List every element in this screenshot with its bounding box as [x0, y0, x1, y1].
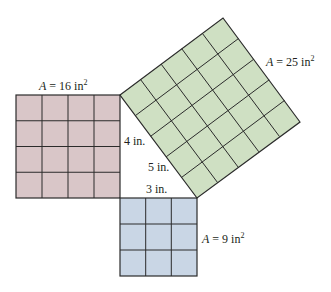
square-b	[120, 198, 197, 276]
leg-b-label: 3 in.	[146, 182, 167, 196]
square-c	[120, 18, 300, 198]
area-label-c: A = 25 in2	[265, 54, 314, 69]
leg-a-label: 4 in.	[124, 134, 145, 148]
area-label-b: A = 9 in2	[201, 231, 244, 246]
area-label-a: A = 16 in2	[38, 78, 87, 93]
square-a	[16, 95, 120, 198]
hypotenuse-label: 5 in.	[148, 160, 169, 174]
pythagorean-diagram: A = 16 in2 A = 25 in2 A = 9 in2 4 in. 5 …	[0, 0, 331, 292]
